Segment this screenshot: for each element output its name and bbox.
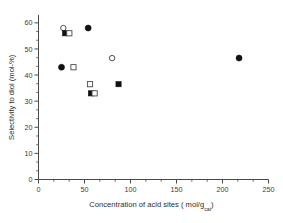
x-tick-label: 250 <box>263 185 275 194</box>
data-point-filled-square <box>116 82 121 87</box>
y-tick-label: 0 <box>29 175 33 184</box>
data-point-filled-circle <box>59 64 65 70</box>
data-point-open-circle <box>61 25 66 30</box>
data-point-open-circle <box>109 55 114 60</box>
data-point-filled-circle <box>236 55 242 61</box>
data-point-open-square <box>67 31 72 36</box>
x-tick-label: 200 <box>217 185 229 194</box>
y-tick-label: 40 <box>25 71 33 80</box>
x-tick-label: 100 <box>125 185 137 194</box>
x-axis-title-main: Concentration of acid sites ( mol/g <box>89 200 204 209</box>
data-point-open-square <box>92 91 97 96</box>
y-tick-label: 50 <box>25 45 33 54</box>
y-tick-label: 30 <box>25 97 33 106</box>
data-point-open-square <box>71 65 76 70</box>
x-tick-label: 150 <box>171 185 183 194</box>
y-tick-label: 10 <box>25 149 33 158</box>
x-tick-label: 0 <box>37 185 41 194</box>
x-tick-label: 50 <box>81 185 89 194</box>
y-axis-title: Selectivity to diol (mol-%) <box>7 54 16 140</box>
data-point-open-square <box>87 82 92 87</box>
scatter-chart-figure: 0102030405060 050100150200250 Concentrat… <box>0 0 283 223</box>
y-tick-label: 60 <box>25 18 33 27</box>
chart-canvas: 0102030405060 050100150200250 Concentrat… <box>0 0 283 223</box>
chart-background <box>0 0 283 223</box>
data-point-filled-circle <box>85 25 91 31</box>
y-tick-label: 20 <box>25 123 33 132</box>
